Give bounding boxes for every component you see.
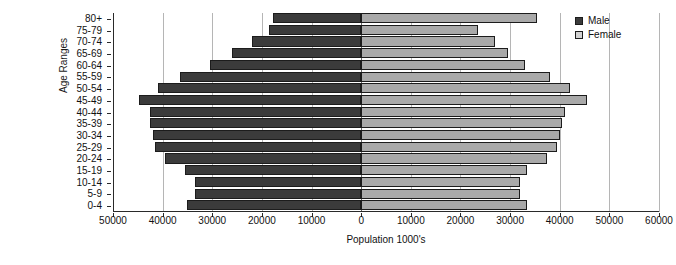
bar-male [195, 177, 361, 187]
x-tick-label: 50000 [99, 216, 127, 226]
y-tick-mark [107, 171, 111, 172]
y-tick-label: 15-19 [76, 166, 102, 176]
x-tick-label: 40000 [546, 216, 574, 226]
y-tick-mark [107, 77, 111, 78]
y-tick-mark [107, 19, 111, 20]
bar-female [361, 177, 520, 187]
population-pyramid-chart: Age Ranges 0-45-910-1415-1920-2425-2930-… [0, 0, 676, 265]
y-tick-mark [107, 194, 111, 195]
y-tick-label: 80+ [85, 14, 102, 24]
bar-female [361, 72, 550, 82]
y-tick-label: 25-29 [76, 143, 102, 153]
y-tick-label: 55-59 [76, 72, 102, 82]
x-tick-label: 0 [358, 216, 364, 226]
legend-swatch-male-icon [575, 17, 583, 25]
y-tick-label: 40-44 [76, 108, 102, 118]
x-axis-title: Population 1000's [113, 234, 659, 245]
bar-row [113, 177, 659, 189]
y-tick-label: 65-69 [76, 49, 102, 59]
bar-male [232, 48, 361, 58]
y-tick-mark [107, 31, 111, 32]
bar-male [269, 25, 361, 35]
x-tick-label: 30000 [198, 216, 226, 226]
bar-female [361, 165, 527, 175]
bar-male [180, 72, 361, 82]
legend-label-female: Female [588, 29, 621, 40]
legend-label-male: Male [588, 15, 610, 26]
x-tick-label: 50000 [595, 216, 623, 226]
x-tick-label: 20000 [447, 216, 475, 226]
x-tick-label: 10000 [298, 216, 326, 226]
bar-female [361, 60, 525, 70]
y-tick-mark [107, 206, 111, 207]
y-tick-mark [107, 124, 111, 125]
bar-female [361, 83, 569, 93]
y-tick-label: 20-24 [76, 154, 102, 164]
x-tick-label: 10000 [397, 216, 425, 226]
y-tick-label: 60-64 [76, 61, 102, 71]
plot-area [113, 13, 659, 212]
bar-female [361, 36, 495, 46]
y-tick-mark [107, 113, 111, 114]
bar-male [155, 142, 361, 152]
bar-male [210, 60, 361, 70]
legend-item-female: Female [575, 28, 621, 41]
bar-row [113, 130, 659, 142]
bar-female [361, 95, 587, 105]
bar-female [361, 189, 520, 199]
bar-male [185, 165, 361, 175]
y-tick-label: 0-4 [88, 201, 102, 211]
bar-male [195, 189, 361, 199]
bar-male [165, 153, 361, 163]
x-axis-tick-labels: 5000040000300002000010000010000200003000… [113, 213, 659, 229]
y-tick-mark [107, 148, 111, 149]
bar-row [113, 142, 659, 154]
bar-male [273, 13, 361, 23]
y-tick-mark [107, 66, 111, 67]
bar-row [113, 95, 659, 107]
x-tick-label: 40000 [149, 216, 177, 226]
legend-item-male: Male [575, 14, 621, 27]
bar-female [361, 118, 562, 128]
bar-row [113, 118, 659, 130]
gridline [659, 13, 660, 212]
y-tick-label: 10-14 [76, 178, 102, 188]
x-axis-line [113, 211, 659, 212]
bar-rows [113, 13, 659, 212]
x-tick-label: 20000 [248, 216, 276, 226]
y-tick-mark [107, 42, 111, 43]
y-tick-label: 35-39 [76, 119, 102, 129]
y-tick-label: 75-79 [76, 26, 102, 36]
y-tick-mark [107, 89, 111, 90]
y-tick-mark [107, 159, 111, 160]
legend: Male Female [575, 14, 621, 42]
bar-row [113, 83, 659, 95]
bar-male [153, 130, 361, 140]
bar-female [361, 25, 478, 35]
bar-row [113, 153, 659, 165]
bar-female [361, 130, 560, 140]
bar-male [150, 107, 361, 117]
bar-row [113, 48, 659, 60]
y-tick-mark [107, 101, 111, 102]
bar-female [361, 13, 537, 23]
bar-row [113, 60, 659, 72]
y-tick-label: 45-49 [76, 96, 102, 106]
bar-row [113, 107, 659, 119]
y-tick-label: 5-9 [88, 189, 102, 199]
bar-male [158, 83, 362, 93]
y-tick-mark [107, 136, 111, 137]
y-tick-label: 30-34 [76, 131, 102, 141]
bar-female [361, 153, 547, 163]
y-axis-line [113, 13, 114, 212]
bar-female [361, 142, 557, 152]
y-tick-label: 50-54 [76, 84, 102, 94]
bar-male [139, 95, 361, 105]
x-tick-label: 30000 [496, 216, 524, 226]
bar-female [361, 48, 507, 58]
y-tick-label: 70-74 [76, 37, 102, 47]
bar-male [252, 36, 361, 46]
legend-swatch-female-icon [575, 31, 583, 39]
y-tick-mark [107, 54, 111, 55]
bar-female [361, 200, 527, 210]
